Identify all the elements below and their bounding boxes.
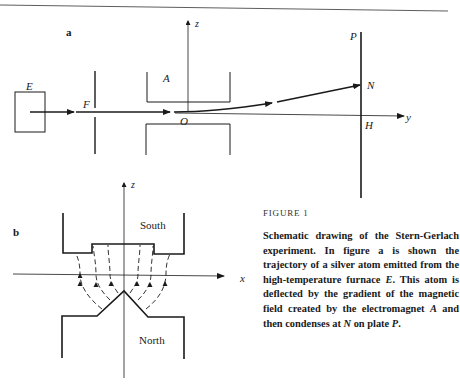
caption-ref-magnet: A: [430, 303, 437, 314]
beam-trajectory-straight: [277, 85, 360, 102]
plate-label: P: [349, 30, 357, 42]
origin-label: O: [180, 115, 188, 127]
x-axis-label: x: [239, 272, 245, 284]
slit-label: F: [82, 98, 90, 110]
impact-label: N: [366, 79, 375, 91]
y-axis-label: y: [405, 111, 411, 123]
caption-segment: .: [398, 318, 401, 329]
beam-trajectory-curved: [174, 103, 272, 112]
panel-a-label: a: [66, 26, 72, 38]
x-axis: [13, 274, 224, 276]
figure-number: FIGURE 1: [263, 208, 459, 218]
y-axis: [175, 113, 404, 116]
z-axis-a-label: z: [194, 18, 199, 29]
top-rule: [0, 5, 448, 11]
north-pole-label: North: [139, 334, 165, 346]
magnet-lower-pole: [146, 124, 230, 155]
panel-b: b z x South North: [13, 179, 245, 378]
south-pole: [63, 213, 184, 254]
magnet-label: A: [162, 72, 170, 84]
panel-b-label: b: [13, 226, 19, 238]
caption-segment: on plate: [351, 318, 392, 329]
magnet-upper-pole: [147, 72, 230, 102]
field-line-arrows: [78, 281, 168, 287]
caption-ref-n: N: [344, 318, 352, 329]
furnace-label: E: [25, 80, 33, 92]
z-axis-b-label: z: [130, 179, 135, 190]
axis-foot-label: H: [364, 119, 374, 131]
north-pole: [62, 291, 184, 359]
caption-text: Schematic drawing of the Stern-Gerlach e…: [263, 229, 459, 331]
south-pole-label: South: [140, 219, 166, 231]
figure-caption: FIGURE 1 Schematic drawing of the Stern-…: [263, 208, 459, 331]
panel-a: a E F A z O y P N H: [15, 18, 411, 198]
